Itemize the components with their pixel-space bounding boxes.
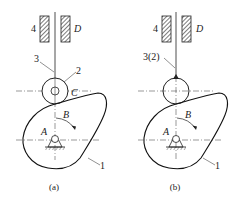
label-cam: 1 [215,160,220,171]
label-roller: 2 [76,65,81,76]
label-follower: 3(2) [143,51,160,63]
cam-profile [23,93,107,169]
cam-mechanism-diagram: 4 D 3 2 C A B 1 (a) 4 [0,0,238,202]
caption-b: (b) [170,182,181,192]
caption-a: (a) [49,182,59,192]
label-guide-right: D [73,23,82,34]
guide-block-left [162,16,171,42]
label-rotation: B [185,109,191,120]
figure-a: 4 D 3 2 C A B 1 (a) [16,12,106,192]
label-cam-pivot: A [162,126,170,137]
figure-b: 4 D 3(2) A B 1 (b) [138,12,227,192]
guide-block-right [61,16,70,42]
label-follower: 3 [34,53,39,64]
label-roller-center: C [71,87,78,98]
guide-block-right [182,16,191,42]
cam-pivot [173,136,180,143]
label-cam-pivot: A [40,126,48,137]
label-guide-left: 4 [31,23,36,34]
guide-block-left [40,16,49,42]
label-rotation: B [63,109,69,120]
label-guide-right: D [195,23,204,34]
cam-profile [144,93,228,169]
label-cam: 1 [100,160,105,171]
cam-pivot [52,136,59,143]
label-guide-left: 4 [153,23,158,34]
